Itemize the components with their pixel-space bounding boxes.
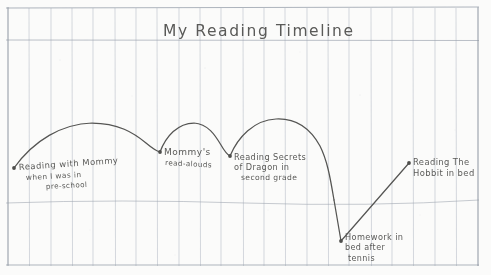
marker-point-5 xyxy=(407,161,411,165)
annotation-point-3-line-3: second grade xyxy=(241,173,297,182)
marker-point-4 xyxy=(339,239,343,243)
annotation-point-3-line-1: Reading Secrets xyxy=(234,152,306,162)
rule-under-title xyxy=(6,40,479,41)
paper-background xyxy=(0,0,491,275)
annotation-point-5: Reading The Hobbit in bed xyxy=(413,157,475,178)
annotation-point-2-line-1: Mommy's xyxy=(164,147,211,157)
timeline-drawing: My Reading Timeline Reading with Mommy w… xyxy=(0,0,491,275)
chart-title: My Reading Timeline xyxy=(163,22,355,40)
annotation-point-4-line-1: Homework in xyxy=(345,232,403,242)
annotation-point-5-line-2: Hobbit in bed xyxy=(413,168,475,178)
marker-point-2 xyxy=(158,150,162,154)
annotation-point-3-line-2: of Dragon in xyxy=(234,162,289,172)
marker-point-1 xyxy=(12,166,16,170)
graph-paper-sheet: My Reading Timeline Reading with Mommy w… xyxy=(0,0,491,275)
annotation-point-4-line-3: tennis xyxy=(348,254,375,263)
marker-point-3 xyxy=(228,154,232,158)
annotation-point-4-line-2: bed after xyxy=(345,243,385,252)
chart-title-text: My Reading Timeline xyxy=(163,22,355,40)
annotation-point-5-line-1: Reading The xyxy=(413,157,470,167)
